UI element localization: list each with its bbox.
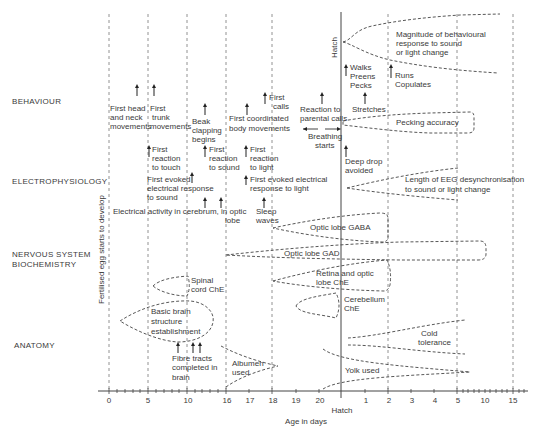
svg-text:Spinal: Spinal	[191, 276, 213, 285]
svg-text:First coordinated: First coordinated	[229, 114, 289, 123]
tick-label: 2	[387, 396, 392, 405]
category-behaviour: BEHAVIOUR	[12, 97, 61, 106]
svg-text:Length of EEG desynchronisatio: Length of EEG desynchronisation	[405, 175, 524, 184]
svg-text:First: First	[250, 145, 266, 154]
svg-text:structure: structure	[151, 317, 183, 326]
tick-label: 10	[184, 396, 193, 405]
electrophysiology-events: First evoked electrical response to soun…	[113, 168, 524, 225]
svg-text:to touch: to touch	[152, 163, 180, 172]
svg-text:Cerebellum: Cerebellum	[344, 295, 385, 304]
svg-text:begins: begins	[192, 135, 216, 144]
fertilised-egg-note: Fertilised egg starts to develop	[97, 195, 106, 304]
svg-text:First head: First head	[110, 104, 146, 113]
hatch-axis-label: Hatch	[332, 406, 353, 415]
category-nervous-system: NERVOUS SYSTEM	[12, 250, 91, 259]
svg-text:to sound: to sound	[209, 163, 240, 172]
svg-text:waves: waves	[255, 216, 279, 225]
chick-development-diagram: BEHAVIOUR ELECTROPHYSIOLOGY NERVOUS SYST…	[0, 0, 538, 430]
svg-text:Beak: Beak	[192, 117, 211, 126]
svg-text:reaction: reaction	[250, 154, 278, 163]
svg-text:Optic lobe GABA: Optic lobe GABA	[310, 223, 371, 232]
svg-text:movements: movements	[150, 122, 191, 131]
svg-text:tolerance: tolerance	[418, 338, 451, 347]
svg-text:First: First	[152, 145, 168, 154]
biochemistry-events: Optic lobe GABA Optic lobe GAD Retina an…	[153, 213, 486, 318]
svg-text:Preens: Preens	[350, 72, 375, 81]
svg-text:Basic brain: Basic brain	[151, 307, 191, 316]
svg-text:lobe ChE: lobe ChE	[316, 278, 349, 287]
category-biochemistry: BIOCHEMISTRY	[12, 260, 77, 269]
svg-text:Copulates: Copulates	[395, 80, 431, 89]
svg-text:reaction: reaction	[209, 154, 237, 163]
svg-text:Cold: Cold	[421, 329, 437, 338]
svg-text:Reaction to: Reaction to	[300, 105, 341, 114]
tick-label: 5	[146, 396, 151, 405]
reference-lines	[109, 12, 513, 398]
svg-text:Deep drop: Deep drop	[345, 157, 383, 166]
tick-label: 16	[223, 396, 232, 405]
svg-text:Pecks: Pecks	[350, 81, 372, 90]
svg-text:and neck: and neck	[110, 113, 143, 122]
svg-text:Pecking accuracy: Pecking accuracy	[396, 118, 459, 127]
svg-text:reaction: reaction	[152, 154, 180, 163]
svg-text:First evoked electrical: First evoked electrical	[250, 175, 328, 184]
svg-text:Runs: Runs	[395, 71, 414, 80]
svg-text:lobe: lobe	[225, 216, 241, 225]
svg-text:response to light: response to light	[250, 184, 309, 193]
svg-text:Sleep: Sleep	[256, 207, 277, 216]
svg-text:Optic lobe GAD: Optic lobe GAD	[284, 249, 340, 258]
svg-text:or light change: or light change	[396, 48, 449, 57]
svg-text:Magnitude of behavioural: Magnitude of behavioural	[396, 30, 486, 39]
axis-title: Age in days	[285, 417, 327, 426]
svg-text:clapping: clapping	[192, 126, 222, 135]
svg-text:Breathing: Breathing	[308, 132, 342, 141]
svg-text:Electrical activity in cerebru: Electrical activity in cerebrum, in opti…	[113, 207, 246, 216]
tick-label: 15	[509, 396, 518, 405]
svg-text:starts: starts	[315, 141, 335, 150]
svg-text:First: First	[269, 93, 285, 102]
svg-text:avoided: avoided	[345, 166, 373, 175]
svg-text:Albumen: Albumen	[232, 359, 264, 368]
tick-label: 10	[481, 396, 490, 405]
tick-label: 20	[316, 396, 325, 405]
svg-text:First: First	[150, 104, 166, 113]
svg-text:establishment: establishment	[151, 327, 201, 336]
svg-text:movements: movements	[110, 122, 151, 131]
svg-text:ChE: ChE	[344, 304, 360, 313]
svg-text:Yolk used: Yolk used	[345, 366, 379, 375]
svg-text:calls: calls	[273, 102, 289, 111]
svg-text:completed in: completed in	[172, 363, 217, 372]
svg-text:Retina and optic: Retina and optic	[316, 269, 374, 278]
svg-text:cord ChE: cord ChE	[191, 285, 224, 294]
svg-text:electrical response: electrical response	[147, 184, 214, 193]
svg-text:Walks: Walks	[350, 63, 371, 72]
tick-label: 4	[433, 396, 438, 405]
svg-text:trunk: trunk	[152, 113, 171, 122]
svg-text:Fibre tracts: Fibre tracts	[172, 354, 212, 363]
svg-text:to sound or light change: to sound or light change	[405, 185, 491, 194]
svg-text:First: First	[209, 145, 225, 154]
category-anatomy: ANATOMY	[14, 341, 55, 350]
svg-text:brain: brain	[172, 373, 190, 382]
behaviour-events: First head and neck movements First trun…	[110, 14, 500, 175]
svg-text:parental calls: parental calls	[300, 114, 347, 123]
tick-label: 18	[269, 396, 278, 405]
tick-label: 1	[364, 396, 369, 405]
svg-text:to light: to light	[250, 163, 274, 172]
svg-text:to sound: to sound	[147, 193, 178, 202]
svg-text:First evoked: First evoked	[147, 175, 191, 184]
tick-label: 3	[410, 396, 415, 405]
svg-text:body movements: body movements	[229, 124, 290, 133]
tick-label: 19	[292, 396, 301, 405]
tick-label: 17	[246, 396, 255, 405]
tick-label: 5	[456, 396, 461, 405]
hatch-label-vertical: Hatch	[330, 37, 339, 58]
svg-text:response to sound: response to sound	[396, 39, 462, 48]
category-electrophysiology: ELECTROPHYSIOLOGY	[12, 177, 108, 186]
tick-label: 0	[107, 396, 112, 405]
anatomy-events: Basic brain structure establishment Fibr…	[120, 301, 470, 389]
svg-text:Stretches: Stretches	[352, 105, 386, 114]
x-axis: 0 5 10 16 17 18 19 20 1 2 3 4 5 10 15 Ha…	[98, 388, 528, 426]
svg-text:used: used	[232, 368, 249, 377]
